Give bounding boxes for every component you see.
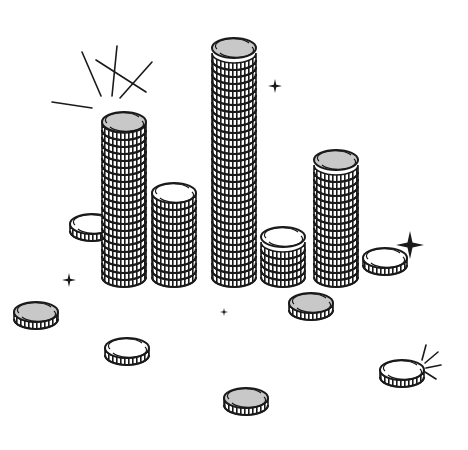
- coin-stack-2: [152, 183, 196, 287]
- burst-small-right: [422, 345, 441, 379]
- coin-stacks-illustration: [0, 0, 468, 450]
- coin-stack-5: [314, 150, 358, 287]
- burst-top-left: [52, 46, 152, 108]
- sparkle-icon: [268, 79, 282, 93]
- loose-coin: [363, 248, 407, 275]
- loose-coin: [224, 388, 268, 415]
- coin-stack-3: [212, 38, 256, 287]
- coin-stack-1: [102, 112, 146, 287]
- sparkle-icon: [220, 308, 228, 316]
- loose-coin: [289, 293, 333, 320]
- sparkle-icon: [62, 273, 76, 287]
- loose-coin: [105, 338, 149, 365]
- coin-stack-4: [261, 227, 305, 287]
- loose-coin: [14, 302, 58, 329]
- loose-coin: [380, 360, 424, 387]
